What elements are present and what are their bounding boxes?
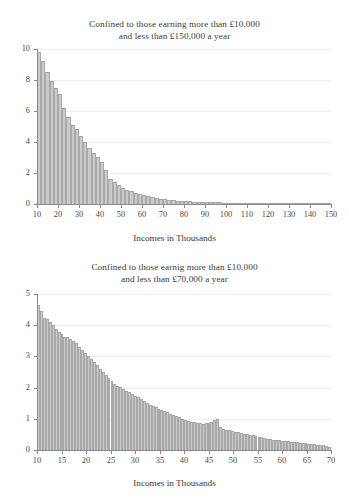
x-axis-tick-label: 55 <box>246 457 270 465</box>
x-axis-tick-label: 30 <box>123 457 147 465</box>
y-axis-tick <box>34 356 37 357</box>
gridline <box>37 294 331 295</box>
y-axis-tick-label: 0 <box>10 446 30 454</box>
y-axis-tick <box>34 80 37 81</box>
y-axis-tick <box>34 49 37 50</box>
y-axis-line <box>37 49 38 205</box>
y-axis-tick-label: 2 <box>10 169 30 177</box>
y-axis-tick-label: 5 <box>10 290 30 298</box>
y-axis-tick-label: 4 <box>10 138 30 146</box>
x-axis-tick <box>184 205 185 208</box>
x-axis-tick <box>86 451 87 454</box>
x-axis-tick <box>289 205 290 208</box>
y-axis-tick <box>34 173 37 174</box>
chart-title-bottom-line-2: and less than £70,000 a year <box>0 273 349 285</box>
x-axis-tick-label: 20 <box>74 457 98 465</box>
y-axis-tick <box>34 388 37 389</box>
x-axis-caption-bottom: Incomes in Thousands <box>0 478 349 488</box>
x-axis-tick <box>209 451 210 454</box>
x-axis-tick <box>268 205 269 208</box>
x-axis-tick <box>331 451 332 454</box>
x-axis-tick <box>163 205 164 208</box>
y-axis-tick-label: 6 <box>10 107 30 115</box>
x-axis-tick <box>79 205 80 208</box>
gridline <box>37 80 331 81</box>
y-axis-tick <box>34 294 37 295</box>
x-axis-tick <box>226 205 227 208</box>
x-axis-tick-label: 50 <box>221 457 245 465</box>
x-axis-tick-label: 35 <box>148 457 172 465</box>
chart-title-top: Confined to those earning more than £10,… <box>0 0 349 43</box>
x-axis-tick <box>111 451 112 454</box>
chart-title-bottom: Confined to those earnig more than £10,0… <box>0 251 349 286</box>
x-axis-tick <box>247 205 248 208</box>
gridline <box>37 325 331 326</box>
y-axis-tick-label: 8 <box>10 76 30 84</box>
y-axis-line <box>37 294 38 451</box>
x-axis-tick-label: 15 <box>50 457 74 465</box>
y-axis-tick <box>34 419 37 420</box>
figure-income-histogram-150k: Confined to those earning more than £10,… <box>0 0 349 251</box>
x-axis-tick <box>184 451 185 454</box>
plot-top: 0246810102030405060708090100110120130140… <box>0 43 349 243</box>
x-axis-tick <box>233 451 234 454</box>
plot-bottom: 01234510152025303540455055606570 <box>0 286 349 491</box>
y-axis-tick-label: 3 <box>10 352 30 360</box>
y-axis-tick <box>34 111 37 112</box>
x-axis-tick <box>135 451 136 454</box>
figure-income-histogram-70k: Confined to those earnig more than £10,0… <box>0 251 349 502</box>
y-axis-tick-label: 2 <box>10 384 30 392</box>
chart-title-top-line-1: Confined to those earning more than £10,… <box>0 18 349 30</box>
x-axis-tick <box>100 205 101 208</box>
y-axis-tick-label: 1 <box>10 415 30 423</box>
x-axis-tick-label: 10 <box>25 457 49 465</box>
x-axis-tick <box>307 451 308 454</box>
gridline <box>37 49 331 50</box>
x-axis-tick-label: 150 <box>319 211 343 219</box>
y-axis-tick-label: 4 <box>10 321 30 329</box>
x-axis-tick-label: 60 <box>270 457 294 465</box>
x-axis-tick-label: 65 <box>295 457 319 465</box>
page-root: Confined to those earning more than £10,… <box>0 0 349 502</box>
x-axis-tick <box>310 205 311 208</box>
chart-title-top-line-2: and less than £150,000 a year <box>0 30 349 42</box>
x-axis-tick <box>258 451 259 454</box>
chart-title-bottom-line-1: Confined to those earnig more than £10,0… <box>0 261 349 273</box>
x-axis-tick-label: 70 <box>319 457 343 465</box>
x-axis-tick <box>37 205 38 208</box>
x-axis-tick <box>331 205 332 208</box>
x-axis-tick <box>58 205 59 208</box>
x-axis-caption-top: Incomes in Thousands <box>0 233 349 243</box>
x-axis-tick <box>282 451 283 454</box>
x-axis-tick-label: 45 <box>197 457 221 465</box>
x-axis-tick <box>142 205 143 208</box>
x-axis-tick-label: 25 <box>99 457 123 465</box>
y-axis-tick <box>34 325 37 326</box>
x-axis-tick <box>37 451 38 454</box>
y-axis-tick-label: 0 <box>10 200 30 208</box>
x-axis-tick <box>121 205 122 208</box>
x-axis-tick <box>160 451 161 454</box>
x-axis-tick <box>205 205 206 208</box>
x-axis-tick <box>62 451 63 454</box>
x-axis-tick-label: 40 <box>172 457 196 465</box>
gridline <box>37 111 331 112</box>
y-axis-tick <box>34 142 37 143</box>
y-axis-tick-label: 10 <box>10 45 30 53</box>
